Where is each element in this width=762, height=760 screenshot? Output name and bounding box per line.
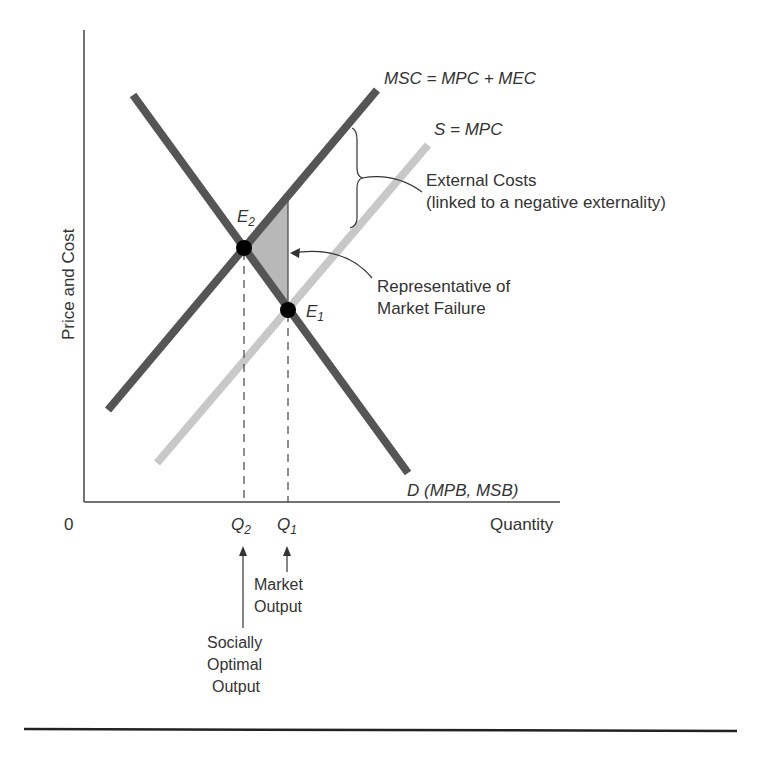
e2-label: E2 xyxy=(237,207,255,229)
q1-label: Q1 xyxy=(277,515,297,537)
x-axis-label: Quantity xyxy=(490,515,554,534)
e1-label: E1 xyxy=(306,302,324,324)
market-output-label: Market Output xyxy=(254,576,307,615)
external-costs-brace xyxy=(350,128,362,228)
origin-label: 0 xyxy=(64,515,73,534)
msc-label: MSC = MPC + MEC xyxy=(384,69,537,88)
arrowhead-icon xyxy=(239,546,247,556)
supply-label: S = MPC xyxy=(434,120,503,139)
arrowhead-icon xyxy=(283,546,291,556)
bottom-rule xyxy=(24,729,737,731)
q2-label: Q2 xyxy=(231,515,251,537)
arrowhead-icon xyxy=(290,248,300,258)
e2-point xyxy=(236,240,252,256)
demand-label: D (MPB, MSB) xyxy=(407,481,518,500)
e1-point xyxy=(280,302,296,318)
y-axis-label: Price and Cost xyxy=(59,228,78,340)
demand-curve xyxy=(133,95,408,473)
externality-diagram: Price and Cost 0 Quantity MSC = MPC + ME… xyxy=(0,0,762,760)
socially-optimal-label: Socially Optimal Output xyxy=(207,634,267,695)
external-costs-label: External Costs (linked to a negative ext… xyxy=(426,171,666,212)
market-failure-label: Representative of Market Failure xyxy=(377,277,515,318)
